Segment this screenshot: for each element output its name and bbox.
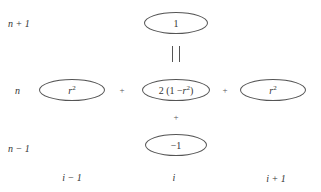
node-left-label: r2: [68, 85, 75, 96]
node-bottom-label: −1: [171, 140, 182, 151]
col-label-i-minus-1: i − 1: [62, 172, 82, 183]
node-bottom: −1: [145, 134, 207, 156]
node-center-label: 2 (1 − r2): [159, 85, 194, 96]
node-top-label: 1: [174, 18, 179, 29]
col-label-i: i: [173, 172, 176, 183]
col-label-i-plus-1: i + 1: [266, 173, 286, 184]
row-label-n-plus-1: n + 1: [8, 18, 30, 29]
node-center: 2 (1 − r2): [142, 79, 210, 101]
plus-right: +: [222, 85, 227, 95]
plus-below: +: [173, 112, 178, 122]
equals-bars: [170, 46, 182, 62]
node-right: r2: [240, 79, 306, 101]
plus-left: +: [119, 85, 124, 95]
row-label-n: n: [15, 85, 20, 96]
node-left: r2: [39, 79, 105, 101]
node-right-label: r2: [269, 85, 276, 96]
row-label-n-minus-1: n − 1: [8, 143, 30, 154]
node-top: 1: [144, 12, 208, 34]
